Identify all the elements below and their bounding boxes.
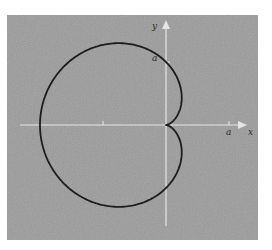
a-label-y-axis: a [152,53,157,63]
cardioid-figure: y x a a [0,0,272,250]
y-axis-label: y [151,21,158,31]
x-axis-label: x [248,127,253,137]
a-label-x-axis: a [226,127,231,137]
